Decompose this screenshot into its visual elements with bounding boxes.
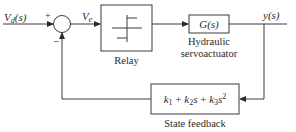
input-label: Vd(s) bbox=[4, 11, 27, 25]
plus-sign: + bbox=[45, 10, 51, 21]
summing-junction bbox=[54, 16, 71, 33]
state-feedback-caption: State feedback bbox=[164, 118, 226, 129]
minus-sign: − bbox=[53, 35, 59, 47]
error-label: Ve bbox=[82, 10, 93, 24]
block-diagram: Vd(s) + − Ve Relay G(s) Hydraulic servoa… bbox=[0, 0, 296, 132]
plant-transfer-function: G(s) bbox=[199, 18, 219, 31]
feedback-wire-right bbox=[240, 24, 264, 99]
plant-caption-line2: servoactuator bbox=[181, 48, 238, 59]
relay-caption: Relay bbox=[114, 55, 139, 66]
output-label: y(s) bbox=[262, 9, 280, 22]
plant-caption-line1: Hydraulic bbox=[188, 36, 230, 47]
